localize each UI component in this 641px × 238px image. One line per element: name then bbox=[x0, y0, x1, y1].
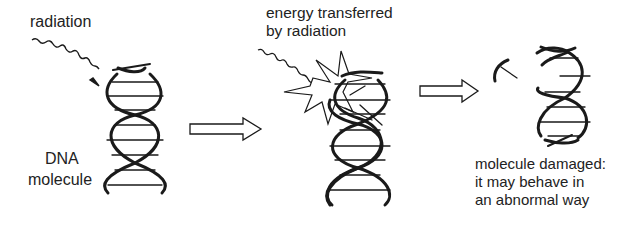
molecule-label: molecule bbox=[28, 171, 92, 189]
process-arrow-1-icon bbox=[190, 118, 261, 140]
radiation-label: radiation bbox=[30, 13, 91, 31]
process-arrow-2-icon bbox=[420, 80, 478, 102]
dna-helix-intact-icon bbox=[105, 64, 166, 193]
by-radiation-label: by radiation bbox=[266, 22, 346, 40]
result-line-1: molecule damaged: bbox=[475, 155, 606, 173]
dna-label: DNA bbox=[45, 150, 79, 168]
broken-fragment-icon bbox=[495, 60, 517, 81]
result-line-2: it may behave in bbox=[475, 173, 584, 191]
energy-burst-icon bbox=[284, 51, 372, 124]
energy-transferred-label: energy transferred bbox=[266, 4, 393, 22]
dna-helix-struck-icon bbox=[327, 72, 390, 205]
result-line-3: an abnormal way bbox=[475, 191, 589, 209]
dna-helix-damaged-icon bbox=[537, 47, 590, 146]
radiation-wave-icon bbox=[32, 39, 99, 86]
